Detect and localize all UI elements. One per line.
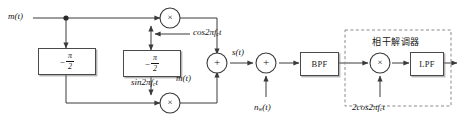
local-oscillator-label: 2cos2πfct [352,103,385,113]
multiplier-top-symbol: × [163,12,177,22]
local-oscillator-time: t [383,102,386,112]
bandpass-filter-block: BPF [300,52,339,76]
two-denominator: 2 [153,64,157,73]
input-message-label: m(t) [8,12,23,21]
cos-carrier-time: t [219,27,222,37]
quadrature-message-label: m(t) [176,74,191,83]
local-oscillator-text: 2cos2πf [352,102,380,112]
adder-channel-symbol: + [259,56,273,68]
multiplier-bottom-symbol: × [163,97,177,107]
sin-carrier-label: sin2πfct [131,78,158,88]
sin-carrier-text: sin2πf [131,77,153,87]
junction-dot [63,15,68,20]
lowpass-filter-label: LPF [419,59,435,69]
pi-numerator: π [68,52,72,60]
cos-carrier-text: cos2πf [193,27,217,37]
noise-input-label: nw(t) [254,103,271,113]
two-denominator: 2 [68,62,72,71]
lowpass-filter-block: LPF [410,52,444,76]
phase-shift-expression: − π 2 [60,52,74,71]
multiplier-demodulator-symbol: × [373,57,387,67]
cos-carrier-label: cos2πfct [193,28,222,38]
bandpass-filter-label: BPF [311,59,327,69]
block-diagram-canvas: − π 2 − π 2 BPF LPF × × × + + m(t) cos2π… [0,0,459,127]
modulated-output-label: s(t) [232,48,244,57]
phase-shifter-middle-block: − π 2 [123,50,181,77]
minus-sign: − [145,59,150,69]
sin-carrier-time: t [156,77,159,87]
adder-modulator-symbol: + [210,56,224,68]
noise-time: (t) [262,102,271,112]
pi-numerator: π [153,54,157,62]
phase-shifter-left-block: − π 2 [38,48,96,75]
phase-shift-expression: − π 2 [145,54,159,73]
demodulator-group-label: 相干解调器 [372,35,420,48]
minus-sign: − [60,57,65,67]
